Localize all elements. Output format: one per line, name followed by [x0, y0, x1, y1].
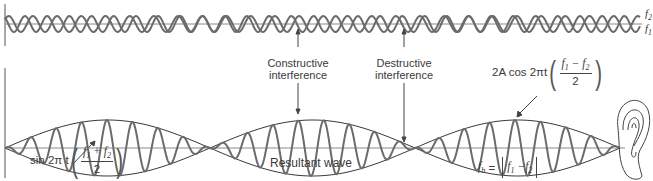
beat-abs-value: f1 −f2 [502, 157, 537, 178]
envelope-fraction: f1 − f2 2 [560, 57, 592, 87]
envelope-pointer [520, 96, 537, 113]
ear-icon [618, 100, 650, 179]
carrier-prefix: sin 2π t [30, 154, 69, 166]
envelope-prefix: 2A cos 2πt [492, 66, 547, 78]
carrier-formula: sin 2π t ( f1 + f2 2 ) [30, 143, 125, 177]
resultant-wave-label: Resultant wave [270, 157, 352, 169]
destructive-interference-label: Destructive interference [372, 57, 436, 81]
top-panel [5, 4, 642, 46]
constructive-interference-label: Constructive interference [262, 57, 334, 81]
envelope-formula: 2A cos 2πt ( f1 − f2 2 ) [492, 55, 604, 89]
beat-frequency-formula: fb = f1 −f2 [478, 157, 537, 178]
carrier-fraction: f1 + f2 2 [81, 145, 113, 175]
beats-diagram: f2 f1 Constructive interference Destruct… [0, 0, 653, 181]
label-f1: f1 [645, 22, 652, 39]
